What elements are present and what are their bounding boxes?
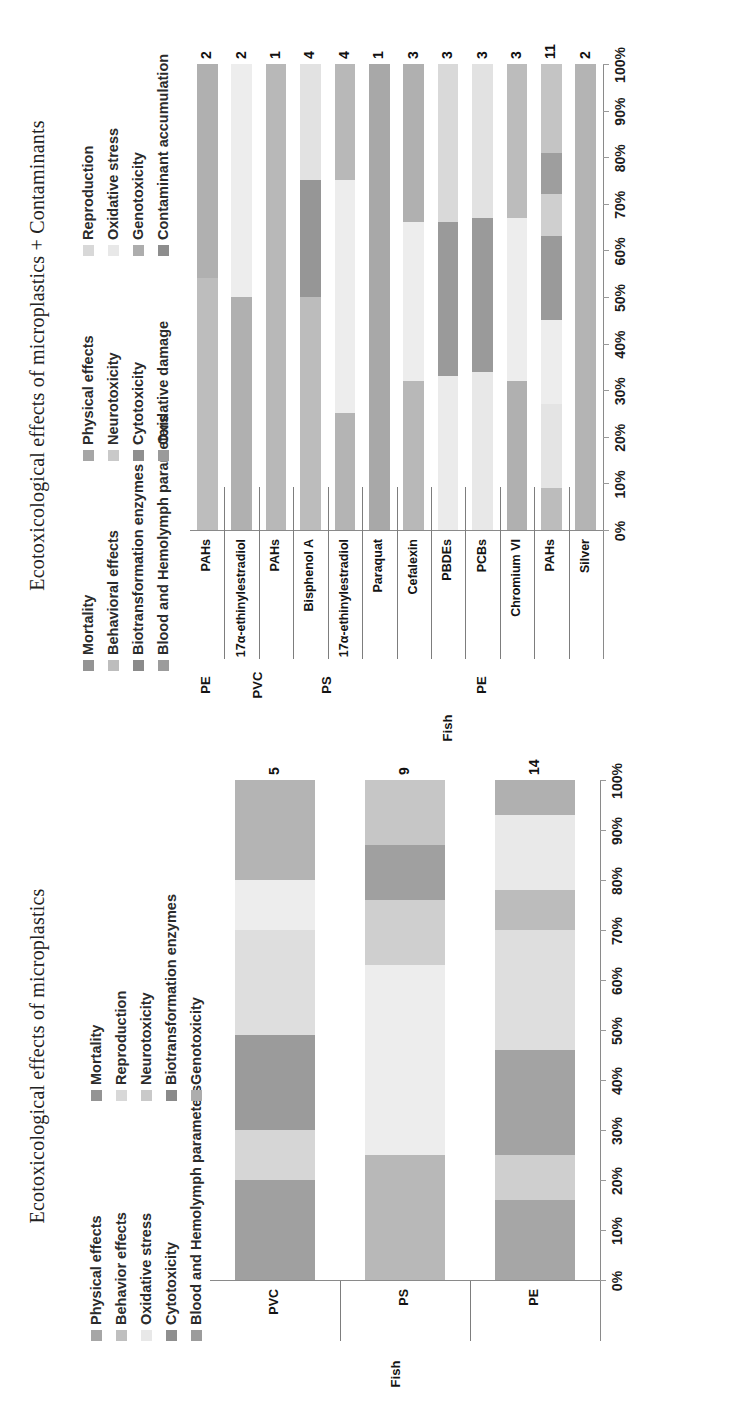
right-legend-item[interactable]: Neurotoxicity [105,321,121,461]
stacked-bar[interactable] [231,64,252,530]
bar-segment[interactable] [335,64,356,181]
bar-segment[interactable] [507,64,528,218]
bar-segment[interactable] [300,181,321,298]
bar-segment[interactable] [495,1200,576,1280]
bar-segment[interactable] [266,64,287,530]
legend-swatch-icon [166,1330,177,1341]
left-legend-item[interactable]: Blood and Hemolymph parameters [188,1085,204,1341]
bar-segment[interactable] [541,488,562,530]
right-legend-item[interactable]: Physical effects [80,321,96,461]
category-separator [328,487,329,659]
axis-tick-label: 0% [609,1255,625,1307]
category-axis-line [600,781,601,1341]
left-legend-item[interactable]: Mortality [88,894,104,1101]
left-legend-item[interactable]: Oxidative stress [138,1085,154,1341]
bar-segment[interactable] [300,64,321,181]
bar-segment[interactable] [541,153,562,195]
left-legend-item[interactable]: Genotoxicity [188,894,204,1101]
right-legend-item[interactable]: Contaminant accumulation [155,54,171,256]
bar-segment[interactable] [495,1155,576,1200]
category-separator [500,487,501,659]
bar-segment[interactable] [472,218,493,372]
bar-segment[interactable] [197,64,218,278]
stacked-bar[interactable] [575,64,596,530]
stacked-bar[interactable] [335,64,356,530]
right-legend-item[interactable]: Genotoxicity [130,54,146,256]
stacked-bar[interactable] [438,64,459,530]
bar-segment[interactable] [541,64,562,153]
axis-tick-mark [603,390,609,391]
bar-segment[interactable] [472,64,493,218]
bar-segment[interactable] [541,404,562,488]
stacked-bar[interactable] [472,64,493,530]
bar-segment[interactable] [403,222,424,380]
category-separator [431,487,432,659]
bar-segment[interactable] [369,64,390,530]
bar-segment[interactable] [365,845,446,900]
stacked-bar[interactable] [266,64,287,530]
bar-segment[interactable] [575,64,596,530]
legend-swatch-icon [108,450,119,461]
stacked-bar[interactable] [300,64,321,530]
legend-label: Oxidative damage [155,321,171,445]
bar-segment[interactable] [541,195,562,237]
bar-segment[interactable] [235,930,316,1035]
bar-segment[interactable] [300,297,321,530]
bar-segment[interactable] [365,780,446,845]
left-legend-item[interactable]: Reproduction [113,894,129,1101]
bar-segment[interactable] [235,1130,316,1180]
axis-tick-label: 30% [609,1105,625,1157]
bar-segment[interactable] [403,64,424,222]
bar-segment[interactable] [231,64,252,297]
left-legend-item[interactable]: Biotransformation enzymes [163,894,179,1101]
bar-segment[interactable] [365,965,446,1155]
stacked-bar[interactable] [197,64,218,530]
bar-segment[interactable] [365,900,446,965]
left-legend-item[interactable]: Behavior effects [113,1085,129,1341]
bar-segment[interactable] [235,1180,316,1280]
bar-total-label: 3 [508,51,524,59]
bar-segment[interactable] [365,1155,446,1280]
legend-label: Neurotoxicity [105,352,121,445]
bar-segment[interactable] [495,930,576,1050]
stacked-bar[interactable] [403,64,424,530]
bar-segment[interactable] [197,278,218,530]
stacked-bar[interactable] [235,780,316,1280]
left-legend-item[interactable]: Neurotoxicity [138,894,154,1101]
legend-swatch-icon [91,1090,102,1101]
group-label: PE [198,667,213,703]
bar-segment[interactable] [335,181,356,414]
bar-segment[interactable] [231,297,252,530]
bar-segment[interactable] [403,381,424,530]
bar-segment[interactable] [541,320,562,404]
bar-segment[interactable] [438,376,459,530]
bar-segment[interactable] [507,218,528,381]
stacked-bar[interactable] [541,64,562,530]
bar-segment[interactable] [438,222,459,376]
bar-segment[interactable] [438,64,459,222]
stacked-bar[interactable] [495,780,576,1280]
bar-segment[interactable] [495,780,576,815]
stacked-bar[interactable] [365,780,446,1280]
bar-segment[interactable] [235,780,316,880]
bar-segment[interactable] [495,815,576,890]
stacked-bar[interactable] [507,64,528,530]
category-label: PE [527,1289,541,1341]
bar-segment[interactable] [507,381,528,530]
right-legend-item[interactable]: Oxidative stress [105,54,121,256]
bar-total-label: 4 [301,51,317,59]
bar-segment[interactable] [495,1050,576,1155]
left-legend-item[interactable]: Physical effects [88,1085,104,1341]
bar-segment[interactable] [235,880,316,930]
stacked-bar[interactable] [369,64,390,530]
bar-segment[interactable] [472,372,493,530]
right-legend-item[interactable]: Cytotoxicity [130,321,146,461]
bar-segment[interactable] [335,414,356,531]
left-legend-item[interactable]: Cytotoxicity [163,1085,179,1341]
bar-segment[interactable] [541,236,562,320]
right-legend-item[interactable]: Reproduction [80,54,96,256]
right-legend-item[interactable]: Oxidative damage [155,321,171,461]
bar-segment[interactable] [235,1035,316,1130]
bar-segment[interactable] [495,890,576,930]
axis-tick-mark [600,880,606,881]
